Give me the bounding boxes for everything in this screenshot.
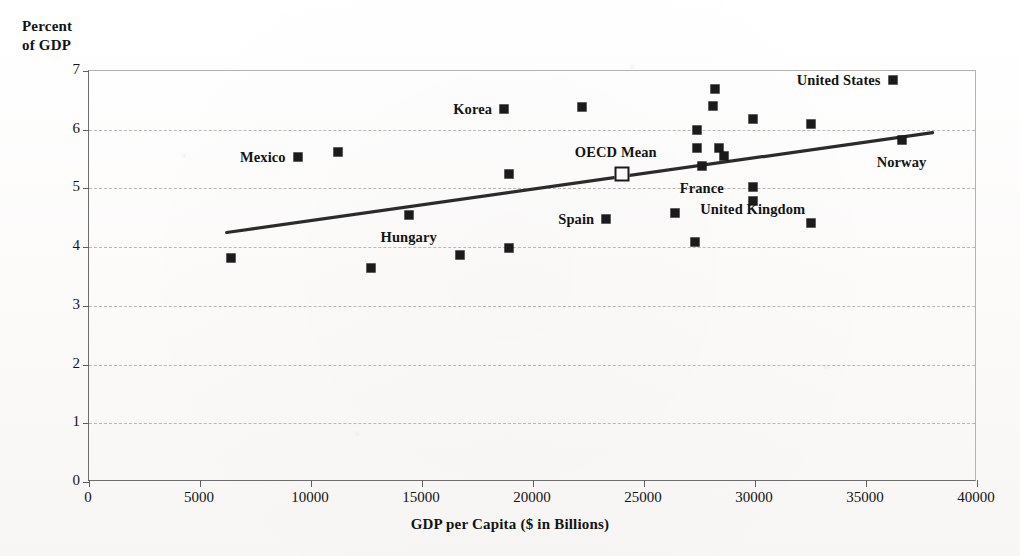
data-point xyxy=(500,104,509,113)
x-tick-label: 5000 xyxy=(184,489,214,506)
y-axis-label-line1: Percent xyxy=(22,18,72,35)
trendline xyxy=(89,71,977,482)
y-tick-label: 1 xyxy=(50,413,80,430)
x-tick-label: 15000 xyxy=(402,489,440,506)
data-point xyxy=(711,84,720,93)
data-point xyxy=(602,214,611,223)
scatter-chart: Percent of GDP GDP per Capita ($ in Bill… xyxy=(0,0,1020,556)
y-axis-label-line2: of GDP xyxy=(22,37,71,54)
data-point xyxy=(293,153,302,162)
y-tick-label: 4 xyxy=(50,237,80,254)
data-point xyxy=(719,152,728,161)
data-point xyxy=(671,208,680,217)
x-tick-label: 0 xyxy=(84,489,92,506)
data-point xyxy=(227,254,236,263)
y-tick-label: 2 xyxy=(50,355,80,372)
y-tick-label: 6 xyxy=(50,120,80,137)
data-point-label: Hungary xyxy=(381,228,437,245)
data-point-label: Mexico xyxy=(240,149,286,166)
x-tick-label: 25000 xyxy=(624,489,662,506)
data-point xyxy=(693,125,702,134)
data-point-label: Spain xyxy=(558,210,594,227)
data-point xyxy=(748,115,757,124)
data-point xyxy=(691,237,700,246)
plot-area: MexicoHungaryKoreaSpainFranceUnited King… xyxy=(88,70,976,481)
data-point-label: United Kingdom xyxy=(700,201,805,218)
oecd-mean-label: OECD Mean xyxy=(575,143,657,160)
data-point-label: Korea xyxy=(453,100,492,117)
data-point-label: France xyxy=(680,179,724,196)
data-point xyxy=(504,244,513,253)
data-point xyxy=(806,219,815,228)
data-point xyxy=(888,75,897,84)
data-point xyxy=(333,148,342,157)
data-point xyxy=(366,264,375,273)
data-point xyxy=(697,161,706,170)
data-point-label: Norway xyxy=(877,154,927,171)
oecd-mean-marker xyxy=(614,166,629,181)
data-point xyxy=(577,103,586,112)
y-tick-label: 3 xyxy=(50,296,80,313)
x-tick-label: 40000 xyxy=(957,489,995,506)
data-point xyxy=(504,169,513,178)
data-point xyxy=(708,102,717,111)
data-point xyxy=(404,210,413,219)
data-point xyxy=(455,251,464,260)
y-tick-label: 5 xyxy=(50,178,80,195)
data-point xyxy=(693,143,702,152)
x-tick-label: 10000 xyxy=(291,489,329,506)
x-axis-label: GDP per Capita ($ in Billions) xyxy=(0,516,1020,533)
x-tick-label: 20000 xyxy=(513,489,551,506)
x-tick-label: 30000 xyxy=(735,489,773,506)
y-tick-label: 7 xyxy=(50,61,80,78)
data-point-label: United States xyxy=(797,71,881,88)
x-tick-label: 35000 xyxy=(846,489,884,506)
x-tick-mark xyxy=(977,480,978,487)
y-tick-label: 0 xyxy=(50,472,80,489)
data-point xyxy=(748,183,757,192)
data-point xyxy=(806,119,815,128)
data-point xyxy=(897,136,906,145)
